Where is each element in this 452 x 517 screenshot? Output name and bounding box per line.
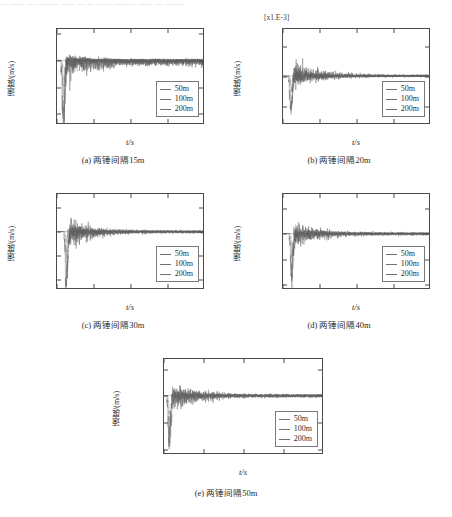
x-axis-tick-mark: [168, 284, 169, 288]
legend-item-label: 200m: [401, 269, 419, 279]
x-axis-tick-label: 10: [127, 123, 135, 124]
x-axis-tick-mark: [57, 29, 58, 33]
x-axis-tick-mark: [283, 284, 284, 288]
legend-item: 100m: [160, 94, 193, 104]
x-axis-label: t/s: [282, 137, 430, 147]
legend-item-label: 100m: [175, 94, 193, 104]
x-axis-tick-mark: [394, 284, 395, 288]
figure-grid: 速度/(m/s)0.0050.000-0.005-0.0100510152050…: [0, 10, 452, 512]
y-axis-tick-mark: [199, 61, 203, 62]
panel-caption: (a) 两锤间隔15m: [0, 155, 226, 166]
panel-b-inner: [x1.E-3]速度/(m/s)5.00.0-5.00510152050m100…: [226, 10, 452, 175]
plot-area: 0.0050.000-0.005-0.0100510152050m100m200…: [163, 358, 323, 454]
legend: 50m100m200m: [275, 411, 318, 447]
legend-item: 100m: [386, 94, 419, 104]
legend-item: 100m: [160, 259, 193, 269]
y-axis-tick-mark: [425, 284, 429, 285]
x-axis-tick-label: 10: [353, 123, 361, 124]
plot-area: 5.00.0-5.00510152050m100m200m: [282, 28, 430, 124]
legend-item-label: 100m: [294, 424, 312, 434]
legend-line-swatch-icon: [160, 254, 171, 255]
y-axis-tick-mark: [57, 34, 61, 35]
y-axis-tick-mark: [57, 114, 61, 115]
x-axis-tick-label: 5: [202, 453, 206, 454]
x-axis-tick-label: 15: [390, 123, 398, 124]
panel-e: 速度/(m/s)0.0050.000-0.005-0.0100510152050…: [101, 340, 351, 512]
x-axis-tick-mark: [284, 449, 285, 453]
legend-item-label: 50m: [175, 249, 189, 259]
legend-item-label: 50m: [401, 84, 415, 94]
y-axis-label: 速度/(m/s): [6, 203, 20, 283]
legend-line-swatch-icon: [386, 109, 397, 110]
legend-line-swatch-icon: [386, 264, 397, 265]
x-axis-tick-mark: [131, 194, 132, 198]
x-axis-tick-mark: [283, 29, 284, 33]
y-axis-label: 速度/(m/s): [232, 38, 246, 118]
x-axis-tick-label: 15: [390, 288, 398, 289]
y-axis-tick-mark: [425, 107, 429, 108]
y-axis-tick-mark: [199, 208, 203, 209]
y-axis-tick-mark: [57, 232, 61, 233]
legend-line-swatch-icon: [386, 254, 397, 255]
legend: 50m100m200m: [382, 81, 425, 117]
x-axis-tick-mark: [244, 449, 245, 453]
figure-row-3: 速度/(m/s)0.0050.000-0.005-0.0100510152050…: [0, 340, 452, 512]
legend-line-swatch-icon: [160, 264, 171, 265]
legend-line-swatch-icon: [160, 109, 171, 110]
legend-item-label: 200m: [401, 104, 419, 114]
y-axis-tick-mark: [283, 209, 287, 210]
legend-item: 200m: [160, 269, 193, 279]
y-axis-tick-mark: [318, 396, 322, 397]
x-axis-tick-mark: [94, 194, 95, 198]
x-axis-tick-mark: [131, 119, 132, 123]
y-axis-tick-mark: [283, 77, 287, 78]
x-axis-tick-label: 10: [127, 288, 135, 289]
legend-line-swatch-icon: [160, 89, 171, 90]
x-axis-tick-mark: [357, 194, 358, 198]
x-axis-tick-mark: [168, 29, 169, 33]
y-axis-exponent-label: [x1.E-3]: [264, 13, 289, 22]
panel-caption: (d) 两锤间隔40m: [226, 320, 452, 331]
legend-item-label: 50m: [294, 414, 308, 424]
plot-area: 0.0050.000-0.005-0.0100510152050m100m200…: [56, 28, 204, 124]
legend: 50m100m200m: [156, 81, 199, 117]
legend-line-swatch-icon: [279, 439, 290, 440]
legend-item: 200m: [386, 104, 419, 114]
legend-item-label: 100m: [401, 259, 419, 269]
x-axis-tick-mark: [57, 119, 58, 123]
truncated-header-text: — —— — ——— —— — — —— ——— —— — ——— — ——: [0, 0, 185, 9]
legend-item-label: 100m: [401, 94, 419, 104]
legend-line-swatch-icon: [279, 419, 290, 420]
panel-a: 速度/(m/s)0.0050.000-0.005-0.0100510152050…: [0, 10, 226, 175]
x-axis-tick-label: 20: [427, 288, 430, 289]
panel-d: 速度/(m/s)0.0050.000-0.005-0.0100510152050…: [226, 175, 452, 340]
x-axis-tick-label: 0: [282, 123, 285, 124]
y-axis-tick-mark: [57, 256, 61, 257]
x-axis-tick-label: 0: [56, 288, 59, 289]
y-axis-tick-mark: [283, 107, 287, 108]
x-axis-tick-label: 0: [163, 453, 166, 454]
x-axis-tick-mark: [320, 194, 321, 198]
plot-area: 0.0050.000-0.005-0.0100510152050m100m200…: [282, 193, 430, 289]
x-axis-tick-mark: [131, 284, 132, 288]
legend-item: 200m: [279, 434, 312, 444]
x-axis-tick-label: 20: [427, 123, 430, 124]
x-axis-tick-mark: [357, 119, 358, 123]
x-axis-tick-label: 5: [92, 288, 96, 289]
panel-caption: (b) 两锤间隔20m: [226, 155, 452, 166]
x-axis-tick-mark: [357, 284, 358, 288]
y-axis-tick-mark: [57, 280, 61, 281]
y-axis-tick-mark: [318, 449, 322, 450]
y-axis-tick-mark: [425, 259, 429, 260]
x-axis-tick-label: 5: [318, 123, 322, 124]
x-axis-tick-mark: [57, 194, 58, 198]
legend-item: 50m: [160, 84, 193, 94]
x-axis-tick-label: 5: [92, 123, 96, 124]
legend-item: 50m: [160, 249, 193, 259]
x-axis-tick-mark: [204, 359, 205, 363]
y-axis-tick-mark: [425, 209, 429, 210]
x-axis-tick-label: 15: [164, 288, 172, 289]
panel-e-inner: 速度/(m/s)0.0050.000-0.005-0.0100510152050…: [101, 340, 351, 512]
panel-c: 速度/(m/s)0.0050.000-0.005-0.0100510152050…: [0, 175, 226, 340]
y-axis-label: 速度/(m/s): [232, 203, 246, 283]
